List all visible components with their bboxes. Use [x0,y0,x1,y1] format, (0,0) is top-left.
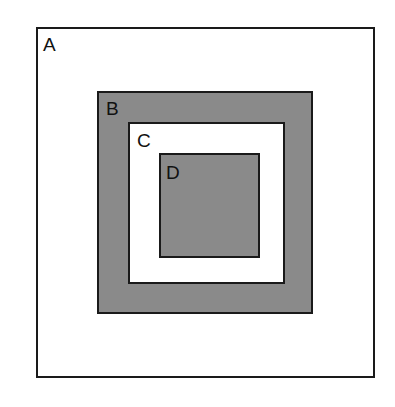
label-a: A [43,35,56,54]
label-b: B [106,99,119,118]
label-d: D [166,163,180,182]
label-c: C [137,131,151,150]
